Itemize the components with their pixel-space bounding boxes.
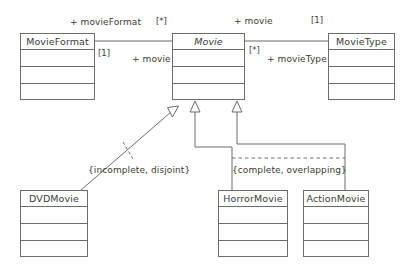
class-compartment-attributes (304, 207, 368, 224)
class-name-horrormovie: HorrorMovie (219, 191, 287, 207)
class-box-actionmovie[interactable]: ActionMovie (303, 190, 369, 257)
association-multiplicity-movie-center: [*] (249, 45, 260, 55)
class-compartment-operations (173, 67, 244, 84)
constraint-label-genre-generalization: {complete, overlapping} (232, 165, 347, 175)
class-compartment-extra (21, 241, 87, 257)
class-compartment-operations (21, 67, 94, 84)
class-compartment-attributes (21, 207, 87, 224)
constraint-connector-dvd (123, 142, 133, 159)
class-box-movie[interactable]: Movie (172, 33, 245, 100)
class-name-actionmovie: ActionMovie (304, 191, 368, 207)
class-compartment-extra (173, 84, 244, 100)
association-role-movie-left: + movie (132, 54, 171, 64)
class-compartment-extra (304, 241, 368, 257)
class-compartment-attributes (21, 50, 94, 67)
generalization-line-dvdmovie (81, 112, 171, 190)
generalization-line-horrormovie (195, 112, 232, 190)
class-compartment-attributes (219, 207, 287, 224)
generalization-triangle-dvdmovie (168, 106, 179, 117)
class-box-dvdmovie[interactable]: DVDMovie (20, 190, 88, 257)
class-compartment-operations (21, 224, 87, 241)
class-compartment-operations (304, 224, 368, 241)
class-compartment-extra (21, 84, 94, 100)
class-compartment-operations (329, 67, 394, 84)
class-box-movieformat[interactable]: MovieFormat (20, 33, 95, 100)
class-compartment-operations (219, 224, 287, 241)
association-multiplicity-movieformat: [*] (156, 16, 167, 26)
class-name-movieformat: MovieFormat (21, 34, 94, 50)
class-compartment-extra (329, 84, 394, 100)
association-role-movieformat: + movieFormat (70, 17, 141, 27)
class-compartment-extra (219, 241, 287, 257)
generalization-triangle-actionmovie (232, 101, 242, 112)
class-name-movietype: MovieType (329, 34, 394, 50)
class-name-dvdmovie: DVDMovie (21, 191, 87, 207)
class-compartment-attributes (173, 50, 244, 67)
constraint-label-dvd-generalization: {incomplete, disjoint} (88, 165, 190, 175)
generalization-line-actionmovie (237, 112, 345, 190)
class-box-horrormovie[interactable]: HorrorMovie (218, 190, 288, 257)
generalization-triangle-horrormovie (190, 101, 200, 112)
association-multiplicity-movie-left: [1] (98, 48, 110, 58)
class-compartment-attributes (329, 50, 394, 67)
uml-class-diagram-canvas: MovieFormat Movie MovieType DVDMovie Hor… (0, 0, 410, 278)
class-name-movie: Movie (173, 34, 244, 50)
class-box-movietype[interactable]: MovieType (328, 33, 395, 100)
association-role-movietype: + movieType (267, 54, 327, 64)
association-multiplicity-movietype: [1] (311, 15, 323, 25)
association-role-movie-right: + movie (234, 16, 273, 26)
